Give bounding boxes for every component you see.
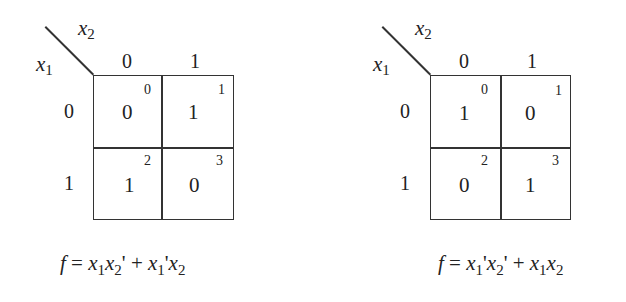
col-header-0: 0 [459,50,469,73]
row-variable-label: x1 [373,52,390,79]
cell-index-m2: 2 [144,153,151,169]
row-header-0: 0 [64,100,74,123]
col-header-1: 1 [527,50,537,73]
row-header-1: 1 [64,172,74,195]
cell-index-m0: 0 [481,82,488,98]
col-variable-label: x2 [78,16,95,43]
boolean-formula: f = x1'x2' + x1x2 [438,251,563,279]
cell-value-m2: 1 [124,173,135,198]
cell-index-m1: 1 [218,82,225,98]
row-variable-label: x1 [36,52,53,79]
row-header-1: 1 [400,172,410,195]
kmap-xnor: x2 x1 0 1 0 1 1 0 0 1 0 2 1 3 f = x1'x2'… [338,0,626,302]
grid-divider-horizontal [430,147,571,149]
cell-value-m0: 0 [122,100,133,125]
cell-index-m0: 0 [144,82,151,98]
cell-index-m3: 3 [216,153,223,169]
cell-value-m0: 1 [459,101,470,126]
col-header-1: 1 [190,50,200,73]
cell-value-m2: 0 [459,173,470,198]
cell-value-m1: 1 [188,100,199,125]
kmap-xor: x2 x1 0 1 0 1 0 0 1 1 1 2 0 3 f = x1x2' … [0,0,313,302]
cell-index-m1: 1 [555,83,562,99]
grid-divider-horizontal [93,147,234,149]
cell-value-m3: 1 [525,173,536,198]
cell-value-m1: 0 [525,101,536,126]
row-header-0: 0 [400,100,410,123]
col-header-0: 0 [122,50,132,73]
cell-index-m2: 2 [481,153,488,169]
col-variable-label: x2 [415,16,432,43]
boolean-formula: f = x1x2' + x1'x2 [60,251,185,279]
cell-value-m3: 0 [189,173,200,198]
cell-index-m3: 3 [552,153,559,169]
